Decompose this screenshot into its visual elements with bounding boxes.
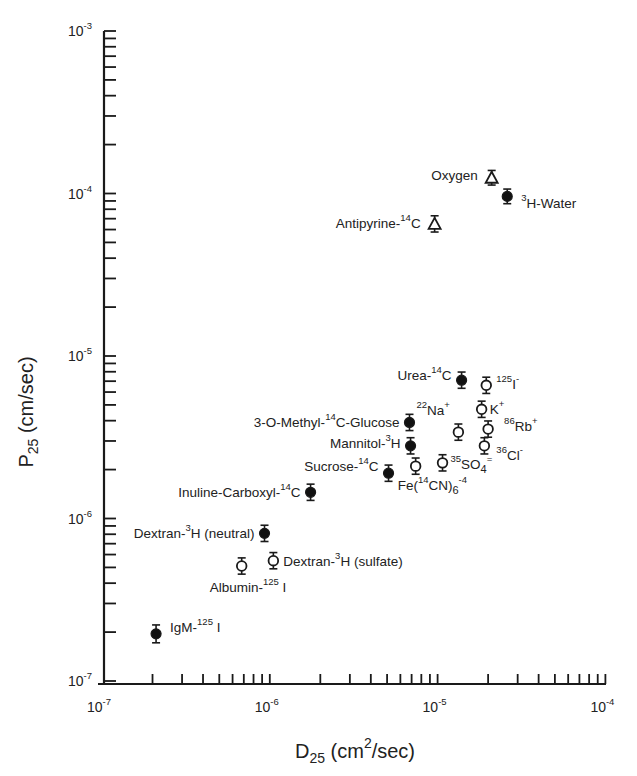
open-circle-marker <box>269 556 279 566</box>
data-point <box>454 424 464 440</box>
open-circle-marker <box>483 424 493 434</box>
permeability-vs-diffusion-scatter: 10-710-610-510-410-310-710-610-510-4 IgM… <box>0 0 637 776</box>
open-circle-marker <box>481 381 491 391</box>
data-point <box>480 438 490 454</box>
point-label: Dextran-3H (sulfate) <box>283 550 402 569</box>
point-label: 86Rb+ <box>504 415 538 434</box>
data-points <box>151 170 512 642</box>
point-label: Urea-14C <box>398 364 452 383</box>
point-label: Inuline-Carboxyl-14C <box>178 481 301 500</box>
filled-circle-marker <box>404 417 414 427</box>
open-triangle-marker <box>429 218 441 229</box>
data-point-labels: IgM-125 IAlbumin-125 IDextran-3H (neutra… <box>134 168 577 635</box>
filled-circle-marker <box>384 468 394 478</box>
y-tick-label: 10-5 <box>68 345 92 364</box>
data-point <box>411 458 421 474</box>
filled-circle-marker <box>151 629 161 639</box>
point-label: Albumin-125 I <box>210 576 287 595</box>
x-tick-label: 10-6 <box>255 696 279 715</box>
open-circle-marker <box>438 458 448 468</box>
y-tick-label: 10-4 <box>68 183 92 202</box>
data-point <box>429 216 441 232</box>
data-point <box>483 421 493 437</box>
y-tick-label: 10-6 <box>68 508 92 527</box>
point-label: Antipyrine-14C <box>336 212 421 231</box>
data-point <box>438 455 448 471</box>
filled-circle-marker <box>260 528 270 538</box>
data-point <box>406 438 416 454</box>
axis-ticks <box>104 31 605 684</box>
open-circle-marker <box>411 461 421 471</box>
filled-circle-marker <box>306 487 316 497</box>
point-label: Dextran-3H (neutral) <box>134 522 255 541</box>
point-label: Mannitol-3H <box>330 432 401 451</box>
point-label: K+ <box>490 398 505 417</box>
data-point <box>481 377 491 393</box>
filled-circle-marker <box>502 191 512 201</box>
axes <box>98 31 606 684</box>
data-point <box>306 484 316 500</box>
data-point <box>486 170 498 185</box>
data-point <box>477 401 487 417</box>
open-triangle-marker <box>486 172 498 183</box>
point-label: 36Cl- <box>496 444 523 463</box>
data-point <box>269 553 279 569</box>
data-point <box>237 558 247 574</box>
point-label: 125I- <box>496 373 519 392</box>
x-tick-label: 10-5 <box>423 696 447 715</box>
open-circle-marker <box>454 427 464 437</box>
point-label: 3H-Water <box>521 192 577 211</box>
y-axis-title: P25 (cm/sec) <box>15 356 41 467</box>
data-point <box>384 465 394 481</box>
y-tick-label: 10-7 <box>68 670 92 689</box>
x-axis-title: D25 (cm2/sec) <box>295 735 415 766</box>
data-point <box>457 372 467 388</box>
data-point <box>404 414 414 430</box>
point-label: 3-O-Methyl-14C-Glucose <box>254 411 400 430</box>
axis-tick-labels: 10-710-610-510-410-310-710-610-510-4 <box>68 20 614 715</box>
open-circle-marker <box>477 404 487 414</box>
data-point <box>151 625 161 643</box>
data-point <box>502 189 512 204</box>
point-label: Fe(14CN)6-4 <box>398 474 467 496</box>
point-label: IgM-125 I <box>170 616 220 635</box>
x-tick-label: 10-4 <box>590 696 614 715</box>
point-label: Sucrose-14C <box>304 455 379 474</box>
point-label: Oxygen <box>431 168 478 183</box>
y-tick-label: 10-3 <box>68 20 92 39</box>
filled-circle-marker <box>406 441 416 451</box>
point-label: 22Na+ <box>416 399 450 418</box>
data-point <box>260 525 270 541</box>
open-circle-marker <box>480 441 490 451</box>
filled-circle-marker <box>457 375 467 385</box>
open-circle-marker <box>237 561 247 571</box>
point-label: 35SO4= <box>451 453 493 475</box>
x-tick-label: 10-7 <box>87 696 111 715</box>
